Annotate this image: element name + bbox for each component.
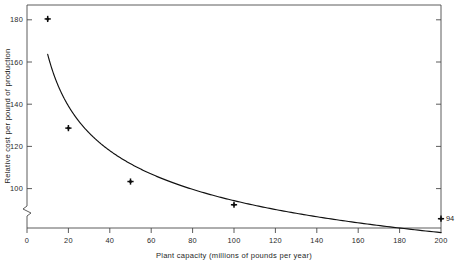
marker-center-dot <box>233 203 236 206</box>
x-tick-label-120: 120 <box>269 236 282 245</box>
x-tick-label-60: 60 <box>147 236 156 245</box>
plot-frame <box>27 5 441 228</box>
y-axis-break-icon <box>23 206 31 216</box>
x-axis-tick-labels: 0 20 40 60 80 100 120 140 160 180 200 <box>25 236 448 245</box>
x-tick-label-140: 140 <box>310 236 323 245</box>
marker-center-dot <box>46 17 49 20</box>
x-axis-title: Plant capacity (millions of pounds per y… <box>156 251 312 260</box>
y-tick-label-120: 120 <box>10 142 23 151</box>
y-axis-ticks-left <box>27 20 32 189</box>
data-point-marker <box>45 16 51 22</box>
marker-center-dot <box>67 127 70 130</box>
x-tick-label-200: 200 <box>435 236 448 245</box>
data-point-marker <box>438 216 444 222</box>
y-tick-label-160: 160 <box>10 58 23 67</box>
x-tick-label-20: 20 <box>64 236 73 245</box>
data-point-marker <box>65 125 71 131</box>
x-tick-label-180: 180 <box>393 236 406 245</box>
y-tick-label-140: 140 <box>10 100 23 109</box>
y-tick-label-180: 180 <box>10 15 23 24</box>
y-axis-ticks-right <box>436 20 441 189</box>
x-tick-label-40: 40 <box>105 236 114 245</box>
marker-center-dot <box>129 180 132 183</box>
data-series-group <box>45 16 445 233</box>
chart-figure: 180 160 140 120 100 0 20 40 60 80 <box>0 0 473 264</box>
data-point-marker <box>127 178 133 184</box>
x-tick-label-0: 0 <box>25 236 29 245</box>
y-axis-title: Relative cost per pound of production <box>3 48 12 183</box>
y-tick-label-100: 100 <box>10 184 23 193</box>
x-tick-label-100: 100 <box>228 236 241 245</box>
x-axis-ticks <box>27 228 441 233</box>
marker-center-dot <box>440 217 443 220</box>
x-tick-label-80: 80 <box>188 236 197 245</box>
economy-of-scale-line-chart: 180 160 140 120 100 0 20 40 60 80 <box>0 0 473 264</box>
y-axis-tick-labels: 180 160 140 120 100 <box>10 15 23 193</box>
data-point-markers <box>45 16 445 222</box>
x-tick-label-160: 160 <box>352 236 365 245</box>
data-point-marker <box>231 202 237 208</box>
end-point-value-label: 94 <box>446 214 454 223</box>
cost-curve <box>48 54 441 232</box>
